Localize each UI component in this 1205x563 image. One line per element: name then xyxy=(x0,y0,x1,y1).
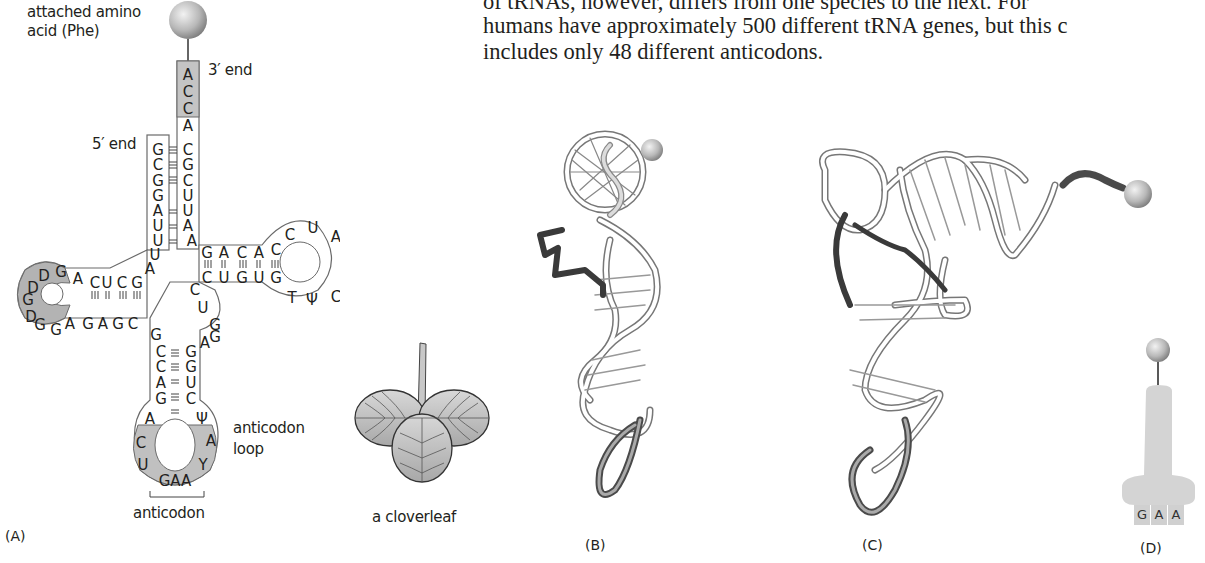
nt: D xyxy=(38,267,50,285)
nt: U xyxy=(198,299,209,317)
nt: G xyxy=(150,326,162,344)
nt: G xyxy=(34,316,46,334)
nt: A xyxy=(98,315,109,333)
nt: A xyxy=(145,410,156,428)
nt: A xyxy=(183,117,194,135)
dark-strand-c-acceptor xyxy=(1063,174,1123,188)
nt: C xyxy=(285,226,295,244)
nt: A xyxy=(73,270,84,288)
nt: A xyxy=(183,66,194,84)
trna-3d-model-b xyxy=(500,100,720,510)
nt: A xyxy=(206,432,217,450)
panel-label-b: (B) xyxy=(585,537,606,553)
body-text-line-3: includes only 48 different anticodons. xyxy=(483,38,823,65)
nt: C xyxy=(136,434,146,452)
anticodon-letter: G xyxy=(1137,507,1147,522)
nt: C xyxy=(271,241,281,259)
anticodon-letters: GAA xyxy=(159,472,192,490)
body-text-line-2: humans have approximately 500 different … xyxy=(483,12,1067,39)
nt: U xyxy=(138,456,149,474)
nt: C xyxy=(183,100,193,118)
nt: C xyxy=(128,315,138,333)
nt: C xyxy=(183,83,193,101)
cloverleaf-illustration xyxy=(350,338,490,488)
nt: A xyxy=(254,244,265,262)
nt: U xyxy=(219,269,230,287)
panel-label-d: (D) xyxy=(1140,540,1162,556)
amino-acid-sphere-c xyxy=(1124,180,1152,208)
nt: C xyxy=(331,288,340,306)
trna-symbol-d: G A A xyxy=(1110,335,1205,525)
nt: G xyxy=(201,244,213,262)
trna-cloverleaf-diagram: A C C A C G C U U A A G C G G A U U U A … xyxy=(0,0,340,520)
nt: A xyxy=(219,244,230,262)
nt: G xyxy=(131,274,143,292)
nt: A xyxy=(331,228,340,246)
nt: G xyxy=(270,269,282,287)
panel-label-a: (A) xyxy=(5,528,26,544)
nt: G xyxy=(50,321,62,339)
trna-symbol-body xyxy=(1122,385,1195,505)
nt: A xyxy=(145,260,156,278)
cloverleaf-label: a cloverleaf xyxy=(372,508,456,526)
nt: G xyxy=(22,291,34,309)
nt: G xyxy=(112,315,124,333)
nt: Y xyxy=(197,456,208,474)
nt: G xyxy=(209,328,221,346)
nt: T xyxy=(286,289,297,307)
nt: G xyxy=(55,263,67,281)
nt: A xyxy=(65,315,76,333)
nt: Ψ xyxy=(306,291,318,309)
anticodon-bracket xyxy=(150,491,204,497)
nt: C xyxy=(190,281,200,299)
dark-strand-c-mid xyxy=(855,225,945,290)
nt: G xyxy=(155,390,167,408)
amino-acid-sphere xyxy=(169,1,207,39)
panel-label-c: (C) xyxy=(862,537,883,553)
nt: C xyxy=(237,244,247,262)
anticodon-letter: A xyxy=(1172,507,1181,522)
nt: U xyxy=(102,274,113,292)
nt: U xyxy=(308,219,319,237)
nt: U xyxy=(254,269,265,287)
amino-acid-sphere-b xyxy=(641,139,663,161)
anticodon-letter: A xyxy=(1155,507,1164,522)
nt: G xyxy=(236,269,248,287)
nt: Ψ xyxy=(196,410,208,428)
nt: C xyxy=(202,269,212,287)
amino-acid-sphere-d xyxy=(1146,338,1170,362)
nt: G xyxy=(82,315,94,333)
nt: C xyxy=(186,390,196,408)
nt: A xyxy=(187,232,198,250)
nt: C xyxy=(117,274,127,292)
dark-strand-b xyxy=(540,230,603,295)
nt: C xyxy=(90,274,100,292)
